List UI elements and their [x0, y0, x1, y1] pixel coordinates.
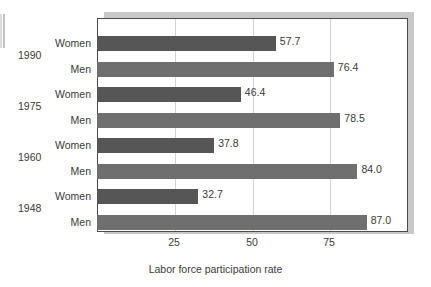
group-label-1975: 1975: [18, 100, 66, 112]
bar-row: Men84.0: [0, 164, 431, 179]
bar-1960-men: [97, 164, 357, 179]
bar-1975-men: [97, 113, 340, 128]
bar-category-label: Men: [31, 215, 91, 230]
bar-row: Men87.0: [0, 215, 431, 230]
bar-value-label: 46.4: [245, 85, 265, 100]
bar-1960-women: [97, 138, 214, 153]
bar-category-label: Men: [31, 113, 91, 128]
chart-figure: Women57.7Men76.4Women46.4Men78.5Women37.…: [0, 0, 431, 287]
bar-value-label: 84.0: [361, 162, 381, 177]
bar-row: Men78.5: [0, 113, 431, 128]
group-label-1948: 1948: [18, 202, 66, 214]
bar-1948-men: [97, 215, 367, 230]
xtick-label-25: 25: [168, 236, 180, 248]
group-label-1960: 1960: [18, 151, 66, 163]
bar-value-label: 57.7: [280, 34, 300, 49]
bar-value-label: 76.4: [338, 60, 358, 75]
bar-1948-women: [97, 189, 198, 204]
bar-category-label: Men: [31, 62, 91, 77]
bar-1975-women: [97, 87, 241, 102]
group-label-1990: 1990: [18, 49, 66, 61]
bar-value-label: 32.7: [202, 187, 222, 202]
bar-category-label: Men: [31, 164, 91, 179]
bar-1990-women: [97, 36, 276, 51]
bar-value-label: 78.5: [344, 111, 364, 126]
bar-rows: Women57.7Men76.4Women46.4Men78.5Women37.…: [0, 0, 431, 287]
x-axis-title: Labor force participation rate: [0, 263, 431, 275]
bar-value-label: 37.8: [218, 136, 238, 151]
bar-value-label: 87.0: [371, 213, 391, 228]
bar-row: Men76.4: [0, 62, 431, 77]
xtick-label-50: 50: [246, 236, 258, 248]
bar-1990-men: [97, 62, 334, 77]
xtick-label-75: 75: [323, 236, 335, 248]
